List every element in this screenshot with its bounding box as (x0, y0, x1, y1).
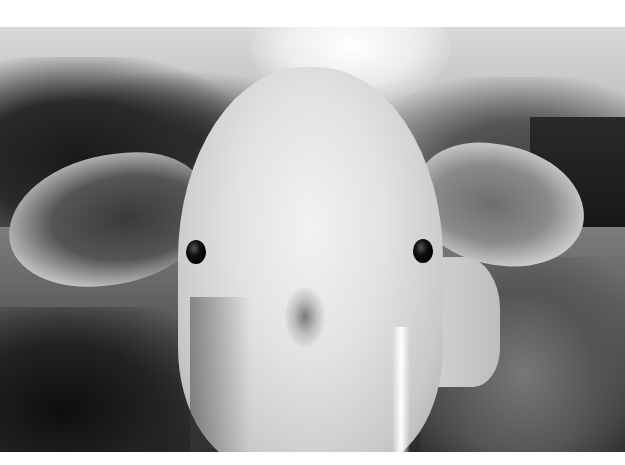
cow-right-eye (413, 239, 433, 263)
cow-forehead-whorl (285, 287, 325, 347)
cow-left-eye (186, 240, 206, 264)
cow-photograph (0, 27, 625, 452)
cow-face-highlight (392, 327, 410, 452)
cow-cheek-shadow (190, 297, 250, 452)
